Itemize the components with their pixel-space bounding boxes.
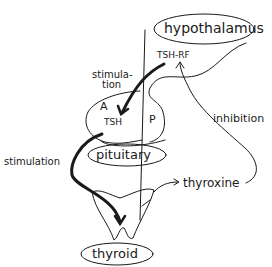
stimulation-top-label-2: tion <box>102 80 121 90</box>
thyroid-label: thyroid <box>92 247 138 260</box>
tsh-label: TSH <box>104 118 122 127</box>
stimulation-bottom-label: stimulation <box>4 157 60 167</box>
pituitary-label: pituitary <box>96 148 151 161</box>
thyroxine-arrow <box>154 182 178 192</box>
midline <box>140 30 145 220</box>
inhibition-label: inhibition <box>213 113 264 124</box>
posterior-label: P <box>149 114 156 125</box>
thyroid-feedback-diagram: hypothalamus TSH-RF stimula- tion A P TS… <box>0 0 272 267</box>
thyroxine-label: thyroxine <box>183 177 239 189</box>
tsh-rf-label: TSH-RF <box>157 51 190 60</box>
anterior-label: A <box>100 101 108 112</box>
diagram-lines <box>0 0 272 267</box>
hypothalamus-label: hypothalamus <box>164 21 264 35</box>
